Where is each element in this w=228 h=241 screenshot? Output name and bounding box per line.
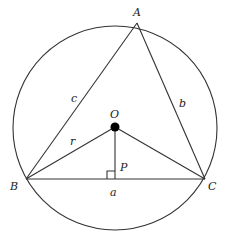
label-side-c: c: [71, 92, 77, 105]
side-ab: [26, 23, 137, 179]
label-a-vertex: A: [132, 6, 141, 19]
radius-oc: [115, 127, 205, 179]
center-dot: [111, 123, 120, 132]
label-side-b: b: [179, 97, 186, 110]
right-angle-marker: [107, 171, 115, 179]
label-c-vertex: C: [208, 180, 217, 193]
side-ac: [137, 23, 205, 179]
label-o-center: O: [110, 108, 119, 121]
circumcircle-diagram: A B C O P a b c r: [0, 0, 228, 241]
label-side-a: a: [110, 186, 117, 199]
label-p-foot: P: [119, 161, 128, 174]
label-radius-r: r: [70, 135, 76, 148]
label-b-vertex: B: [9, 180, 18, 193]
